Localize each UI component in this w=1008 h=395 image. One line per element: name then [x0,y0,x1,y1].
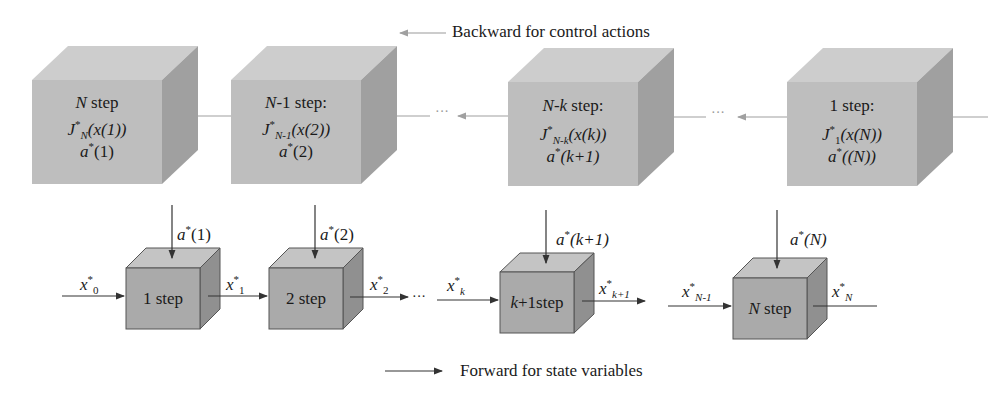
top-cube-3-text: N-k step: J*N-k(x(k)) a*(k+1) [508,95,638,167]
state-label-xN: x*N [832,283,852,300]
control-label-1: a*(1) [177,226,211,243]
bottom-cube-3-label: k+1step [497,292,577,313]
state-label-x1: x*1 [226,276,245,293]
ellipsis-top-1: ··· [435,105,449,119]
bottom-cube-1-label: 1 step [126,288,200,309]
backward-legend-label: Backward for control actions [452,23,650,40]
ellipsis-top-2: ··· [711,106,725,120]
diagram-canvas [0,0,1008,395]
ellipsis-bottom: ··· [412,290,426,304]
top-cube-1-text: N step J*N(x(1)) a*(1) [32,92,162,162]
top-cube-4-text: 1 step: J*1(x(N)) a*((N)) [787,95,917,167]
state-label-xk: x*k [447,277,465,294]
control-arrows [172,205,777,268]
top-cube-2-text: N-1 step: J*N-1(x(2)) a*(2) [231,92,361,162]
state-label-x0: x*0 [80,276,99,293]
state-label-xN1: x*N-1 [682,283,712,300]
control-label-2: a*(2) [320,226,354,243]
forward-legend-label: Forward for state variables [460,362,643,379]
control-label-k1: a*(k+1) [556,231,609,248]
state-label-x2: x*2 [370,276,389,293]
state-label-xk1: x*k+1 [599,280,630,297]
bottom-cube-4-label: N step [733,298,807,319]
bottom-cube-2-label: 2 step [269,288,343,309]
control-label-N: a*(N) [790,231,827,248]
